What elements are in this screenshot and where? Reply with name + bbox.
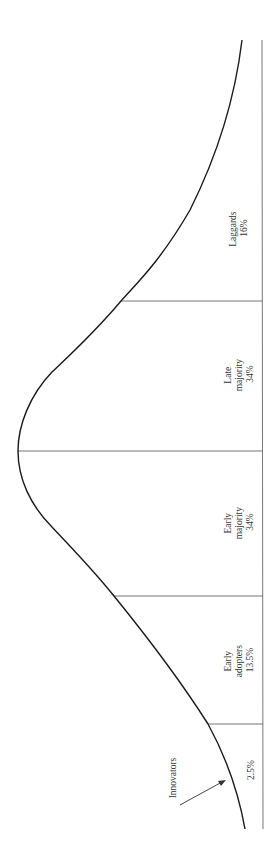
bell-curve [18, 40, 245, 829]
segment-early-adopters-label: Early adopters 13.5% [223, 643, 255, 678]
segment-laggards-label: Laggards 16% [228, 209, 249, 247]
segment-innovators-percent: 2.5% [246, 760, 256, 780]
innovators-callout-label: Innovators [168, 757, 178, 798]
innovators-arrow-head [218, 780, 226, 786]
baseline-axis [262, 40, 263, 829]
adoption-curve-diagram: Innovators 2.5% Early adopters 13.5% Ear… [0, 0, 278, 866]
innovators-arrow-line [180, 782, 222, 805]
segment-early-majority-label: Early majority 34% [223, 505, 255, 540]
segment-late-majority-label: Late majority 34% [223, 357, 255, 392]
